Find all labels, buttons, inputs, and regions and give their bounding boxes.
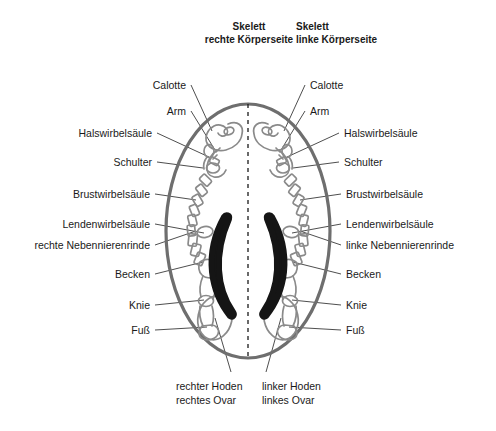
leader-left-brustwirbelsaeule [300, 194, 341, 200]
fibula-left [283, 306, 285, 326]
label-right-schulter: Schulter [0, 156, 152, 169]
organ-uptake-band-left [262, 215, 284, 316]
leader-bottom-linker-hoden [266, 318, 281, 372]
fibula-right [212, 306, 214, 326]
label-left-linke-nebennierenrinde: linke Nebennierenrinde [346, 239, 454, 252]
halswirbel-seg1-left [276, 156, 287, 166]
label-left-arm: Arm [310, 105, 329, 118]
leader-right-brustwirbelsaeule [155, 194, 196, 200]
fuss-left [277, 325, 296, 340]
label-bottom-rechter-hoden: rechter Hoden rechtes Ovar [176, 380, 243, 407]
label-right-rechte-nebennierenrinde: rechte Nebennierenrinde [0, 239, 150, 252]
label-right-lendenwirbelsaeule: Lendenwirbelsäule [0, 218, 150, 231]
label-left-lendenwirbelsaeule: Lendenwirbelsäule [346, 218, 434, 231]
label-left-fuss: Fuß [346, 324, 365, 337]
label-right-calotte: Calotte [0, 79, 186, 92]
label-left-becken: Becken [346, 268, 381, 281]
label-right-knie: Knie [0, 299, 150, 312]
femur-left [293, 276, 296, 297]
organ-uptake-band-right [212, 215, 234, 316]
label-bottom-linker-hoden: linker Hoden linkes Ovar [262, 380, 321, 407]
label-left-brustwirbelsaeule: Brustwirbelsäule [346, 188, 423, 201]
femur-right [200, 276, 203, 297]
label-right-halswirbelsaeule: Halswirbelsäule [0, 127, 152, 140]
label-right-becken: Becken [0, 268, 150, 281]
label-right-arm: Arm [0, 105, 186, 118]
label-left-schulter: Schulter [344, 156, 383, 169]
diagram-canvas: Skelett rechte Körperseite Skelett linke… [0, 0, 496, 431]
label-right-brustwirbelsaeule: Brustwirbelsäule [0, 188, 150, 201]
anatomical-figure [0, 0, 496, 431]
body-outline-oval [166, 104, 330, 358]
label-left-calotte: Calotte [310, 79, 343, 92]
label-right-fuss: Fuß [0, 324, 150, 337]
leader-bottom-rechter-hoden [215, 318, 231, 372]
label-left-halswirbelsaeule: Halswirbelsäule [344, 127, 418, 140]
fuss-right [199, 325, 218, 340]
label-left-knie: Knie [346, 299, 367, 312]
halswirbel-seg1-right [209, 156, 220, 166]
organ-uptake-left-group [262, 215, 284, 316]
